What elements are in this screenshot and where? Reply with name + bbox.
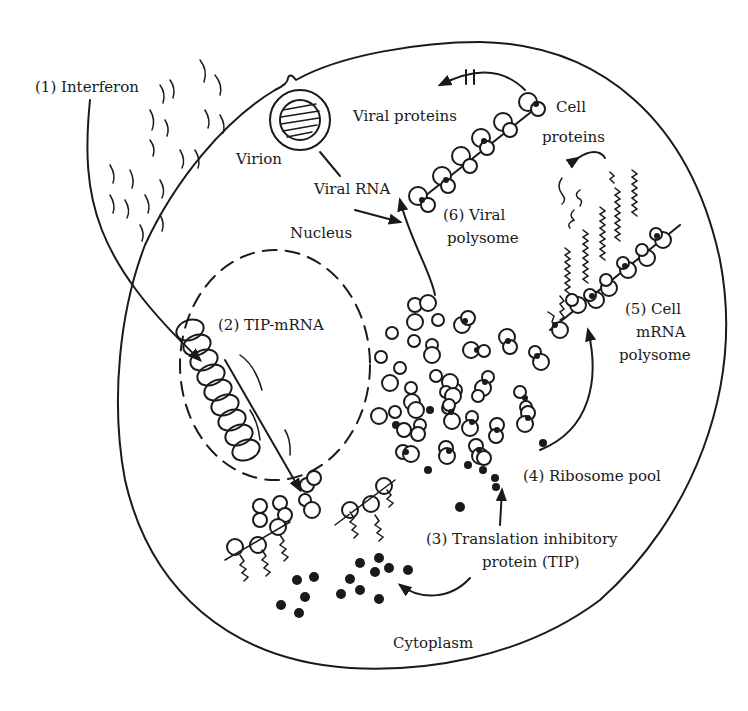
label-cell-mrna-polysome-1: (5) Cell bbox=[625, 300, 681, 318]
label-viral-proteins: Viral proteins bbox=[353, 107, 457, 125]
label-viral-polysome-2: polysome bbox=[447, 229, 519, 247]
interferon-arrow bbox=[87, 100, 200, 360]
tip-mrna-coil bbox=[173, 316, 300, 490]
label-tip-2: protein (TIP) bbox=[482, 553, 580, 571]
label-tip-mrna: (2) TIP-mRNA bbox=[218, 316, 324, 334]
label-viral-polysome-1: (6) Viral bbox=[443, 206, 505, 224]
label-interferon: (1) Interferon bbox=[35, 78, 139, 96]
label-virion: Virion bbox=[236, 150, 282, 168]
label-nucleus: Nucleus bbox=[290, 224, 352, 242]
label-cell-mrna-polysome-2: mRNA bbox=[636, 323, 685, 341]
label-cytoplasm: Cytoplasm bbox=[393, 634, 473, 652]
label-cell-mrna-polysome-3: polysome bbox=[619, 346, 691, 364]
interferon-diagram: (1) Interferon Virion Viral proteins Cel… bbox=[0, 0, 748, 711]
label-cell-proteins-1: Cell bbox=[556, 98, 586, 116]
label-viral-rna: Viral RNA bbox=[314, 180, 390, 198]
label-ribosome-pool: (4) Ribosome pool bbox=[523, 467, 661, 485]
label-tip-1: (3) Translation inhibitory bbox=[426, 530, 618, 548]
label-cell-proteins-2: proteins bbox=[542, 128, 605, 146]
